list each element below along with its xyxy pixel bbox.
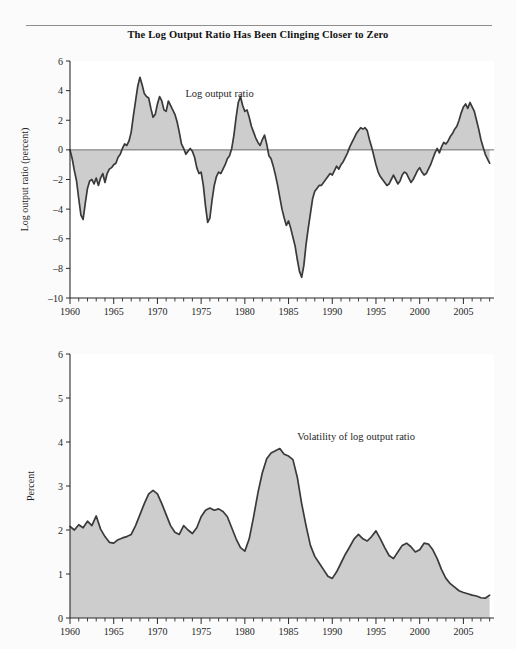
bottom-y-tick-labels: 0123456 — [58, 349, 63, 624]
x-tick-label: 1970 — [147, 306, 167, 317]
x-tick-label: 2000 — [410, 306, 430, 317]
top-rule-divider — [26, 25, 492, 26]
x-tick-label: 1960 — [60, 626, 80, 637]
x-tick-label: 1980 — [235, 626, 255, 637]
y-tick-label: 2 — [58, 115, 63, 126]
page-title: The Log Output Ratio Has Been Clinging C… — [0, 29, 516, 40]
y-tick-label: 6 — [58, 349, 63, 360]
series-annotation: Volatility of log output ratio — [297, 431, 415, 442]
figure-container: The Log Output Ratio Has Been Clinging C… — [0, 0, 516, 649]
y-tick-label: –4 — [52, 204, 63, 215]
x-tick-label: 2005 — [453, 306, 473, 317]
y-axis-title-text: Log output ratio (percent) — [19, 128, 31, 232]
x-tick-label: 1975 — [191, 626, 211, 637]
x-tick-label: 1985 — [279, 306, 299, 317]
top-annotation-label: Log output ratio — [185, 88, 253, 99]
x-tick-label: 1985 — [279, 626, 299, 637]
log-output-ratio-chart: –10–8–6–4–20246 196019651970197519801985… — [0, 45, 516, 325]
x-tick-label: 2000 — [410, 626, 430, 637]
volatility-chart: 0123456 19601965197019751980198519901995… — [0, 340, 516, 640]
top-y-tick-labels: –10–8–6–4–20246 — [47, 56, 63, 304]
y-tick-label: 1 — [58, 569, 63, 580]
x-tick-label: 1980 — [235, 306, 255, 317]
x-tick-label: 1990 — [322, 306, 342, 317]
top-x-tick-labels: 1960196519701975198019851990199520002005 — [60, 306, 473, 317]
x-tick-label: 1960 — [60, 306, 80, 317]
x-tick-label: 1965 — [104, 306, 124, 317]
y-tick-label: 4 — [58, 437, 63, 448]
x-tick-label: 1990 — [322, 626, 342, 637]
y-tick-label: –6 — [52, 233, 63, 244]
y-tick-label: 5 — [58, 393, 63, 404]
x-tick-label: 1995 — [366, 626, 386, 637]
y-tick-label: –2 — [52, 174, 63, 185]
x-tick-label: 1970 — [147, 626, 167, 637]
y-tick-label: 0 — [58, 613, 63, 624]
y-tick-label: 4 — [58, 85, 63, 96]
x-tick-label: 2005 — [453, 626, 473, 637]
y-axis-title-text: Percent — [25, 471, 36, 501]
x-tick-label: 1965 — [104, 626, 124, 637]
x-tick-label: 1975 — [191, 306, 211, 317]
bottom-annotation-label: Volatility of log output ratio — [297, 431, 415, 442]
y-tick-label: 6 — [58, 56, 63, 67]
y-tick-label: 3 — [58, 481, 63, 492]
y-tick-label: –8 — [52, 263, 63, 274]
bottom-y-axis-title: Percent — [25, 471, 36, 501]
y-tick-label: 0 — [58, 144, 63, 155]
bottom-x-tick-labels: 1960196519701975198019851990199520002005 — [60, 626, 473, 637]
x-tick-label: 1995 — [366, 306, 386, 317]
series-annotation: Log output ratio — [185, 88, 253, 99]
y-tick-label: –10 — [47, 293, 63, 304]
top-y-axis-title: Log output ratio (percent) — [19, 128, 31, 232]
y-tick-label: 2 — [58, 525, 63, 536]
